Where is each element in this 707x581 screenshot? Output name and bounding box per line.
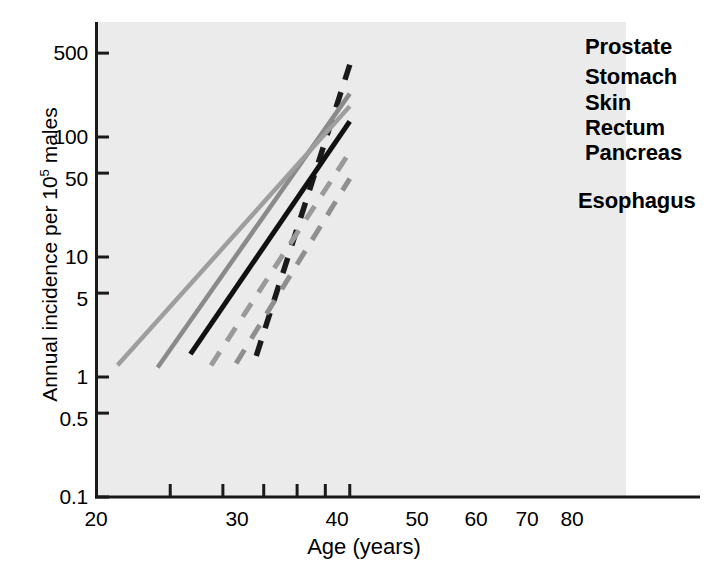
chart-vector-layer	[0, 0, 707, 581]
figure-canvas: 500 100 50 10 5 1 0.5 0.1 20 30 40 50 60…	[0, 0, 707, 581]
axes-group	[95, 22, 700, 498]
series-lines	[118, 65, 350, 368]
series-line-stomach	[158, 94, 350, 368]
